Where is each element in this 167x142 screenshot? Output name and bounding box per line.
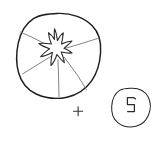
- sketch-drawing: +: [0, 0, 167, 142]
- segment-line-upper-right: [67, 39, 98, 49]
- segment-line-lower-right: [65, 58, 87, 91]
- segment-line-lower-left: [23, 56, 52, 74]
- fruit-cross-section: [17, 13, 101, 98]
- sketch-canvas: +: [0, 0, 167, 142]
- plus-sign: [74, 107, 83, 116]
- star-splat-core: [39, 29, 72, 66]
- segment-line-bottom: [58, 60, 59, 97]
- seed-circle: [112, 88, 151, 127]
- zigzag-seed-mark-icon: [127, 98, 134, 112]
- zigzag-seed-mark-tail-icon: [134, 98, 136, 99]
- seed-circle-outline: [112, 88, 151, 127]
